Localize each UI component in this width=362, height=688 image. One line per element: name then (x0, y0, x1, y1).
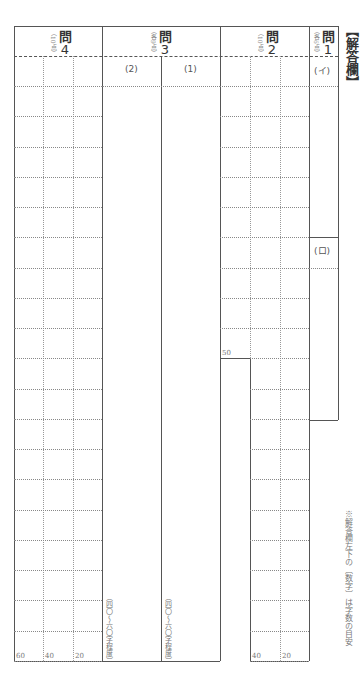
sheet-note: ※解答欄左下の〔数字〕は字数の目安 (342, 510, 353, 646)
grid-line (14, 661, 102, 662)
grid-line (220, 268, 309, 269)
grid-line (14, 449, 102, 450)
grid-line (14, 298, 102, 299)
grid-line (14, 631, 102, 632)
q2-count-40: 40 (252, 652, 261, 660)
grid-line (220, 147, 309, 148)
q4-count-60: 60 (16, 652, 25, 660)
grid-line (250, 600, 309, 601)
grid-line (250, 540, 309, 541)
grid-line (14, 600, 102, 601)
grid-line (220, 86, 309, 87)
grid-line (14, 419, 102, 420)
q4-number: 4 (58, 43, 72, 56)
grid-line (14, 147, 102, 148)
grid-line (220, 177, 309, 178)
sheet-title: 【解答欄】 (342, 24, 361, 89)
q1-points: （各6点） (313, 28, 319, 56)
table-top-border (14, 26, 338, 27)
grid-line (250, 358, 309, 359)
q1-part-divider (309, 237, 338, 238)
q3-part2-length-note: （四〇～六〇字程度） (104, 594, 114, 664)
grid-line (250, 419, 309, 420)
grid-line (14, 237, 102, 238)
grid-line (14, 116, 102, 117)
q3-points: （各9点） (150, 28, 156, 56)
grid-line (250, 479, 309, 480)
grid-line (250, 510, 309, 511)
grid-line (250, 449, 309, 450)
q2-points: （10点） (257, 30, 263, 56)
grid-line (309, 86, 338, 87)
q2-50-step-border (220, 358, 250, 359)
q3-part2-label: (2) (125, 64, 138, 74)
grid-line (14, 540, 102, 541)
q4-points: （10点） (50, 30, 56, 56)
grid-line (14, 570, 102, 571)
grid-line (14, 510, 102, 511)
grid-line (250, 661, 309, 662)
grid-line (14, 389, 102, 390)
q1-bottom-border (309, 420, 338, 421)
grid-line (14, 268, 102, 269)
q2-number: 2 (265, 43, 279, 56)
q1-right-border (338, 26, 339, 420)
grid-line (14, 177, 102, 178)
q4-count-20: 20 (75, 652, 84, 660)
q3-part2-answer-area[interactable] (103, 86, 160, 660)
grid-line (220, 298, 309, 299)
grid-line (250, 570, 309, 571)
grid-line (14, 207, 102, 208)
grid-line (250, 389, 309, 390)
grid-line (14, 479, 102, 480)
grid-line (14, 358, 102, 359)
q3-part1-answer-area[interactable] (162, 86, 219, 660)
q1-part-ro-label: (ロ) (314, 244, 330, 257)
q3-part1-label: (1) (184, 64, 197, 74)
q3-part1-length-note: （四〇～六〇字程度） (163, 594, 173, 664)
grid-line (220, 207, 309, 208)
q1-number: 1 (321, 43, 335, 56)
grid-line (14, 328, 102, 329)
q3-q2-divider (220, 26, 221, 661)
grid-line (309, 268, 338, 269)
grid-line (220, 328, 309, 329)
grid-line (220, 237, 309, 238)
q1-part-i-label: (イ) (314, 64, 330, 77)
q3-number: 3 (158, 43, 172, 56)
q2-count-50: 50 (222, 349, 231, 357)
q2-count-20: 20 (282, 652, 291, 660)
grid-line (250, 631, 309, 632)
grid-line (102, 86, 220, 87)
grid-line (220, 116, 309, 117)
q1-part-ro-answer-area[interactable] (310, 266, 338, 419)
table-left-border (14, 26, 15, 661)
q1-part-i-answer-area[interactable] (310, 86, 338, 236)
grid-line (14, 86, 102, 87)
q4-count-40: 40 (45, 652, 54, 660)
